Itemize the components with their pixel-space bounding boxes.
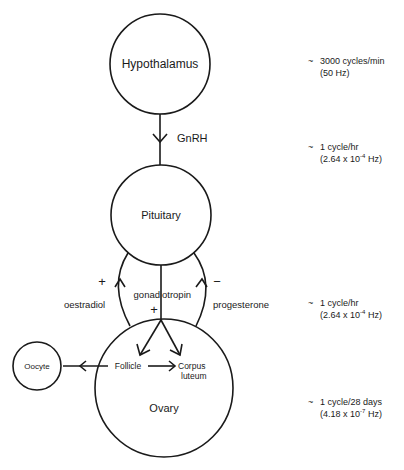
approx-sign: ~	[308, 297, 320, 309]
corpus-luteum-label-line1: Corpus	[178, 361, 205, 371]
approx-sign: ~	[308, 141, 320, 153]
frequency-hypothalamus: ~3000 cycles/min (50 Hz)	[308, 55, 385, 79]
frequency-cycles: 1 cycle/hr	[320, 298, 359, 308]
progesterone-sign: −	[213, 274, 221, 289]
approx-sign: ~	[308, 55, 320, 67]
oestradiol-label: oestradiol	[64, 299, 105, 310]
oestradiol-feedback-arc	[118, 253, 130, 326]
follicle-label: Follicle	[115, 361, 142, 371]
oestradiol-arrowhead-icon	[115, 279, 125, 287]
frequency-hz: (50 Hz)	[308, 67, 385, 79]
frequency-ovary: ~1 cycle/28 days (4.18 x 10-7 Hz)	[308, 396, 382, 420]
oestradiol-sign: +	[98, 274, 106, 289]
oocyte-label: Oocyte	[24, 362, 50, 371]
frequency-gonadotropin: ~1 cycle/hr (2.64 x 10-4 Hz)	[308, 297, 382, 321]
frequency-hz-base: (2.64 x 10	[320, 154, 360, 164]
frequency-hz-base: (4.18 x 10	[320, 409, 360, 419]
gonadotropin-to-follicle-line	[140, 320, 161, 355]
gonadotropin-sign: +	[150, 302, 158, 317]
ovary-node	[95, 319, 233, 457]
frequency-cycles: 1 cycle/hr	[320, 142, 359, 152]
corpus-arrowhead-icon	[170, 344, 182, 355]
frequency-gnrh: ~1 cycle/hr (2.64 x 10-4 Hz)	[308, 141, 382, 165]
frequency-hz: (2.64 x 10-4 Hz)	[308, 153, 382, 165]
gonadotropin-label-right: otropin	[162, 289, 191, 300]
frequency-hz-unit: Hz)	[365, 409, 382, 419]
gnrh-label: GnRH	[177, 132, 208, 144]
approx-sign: ~	[308, 396, 320, 408]
frequency-hz-unit: Hz)	[365, 154, 382, 164]
frequency-cycles: 1 cycle/28 days	[320, 397, 382, 407]
pituitary-label: Pituitary	[141, 209, 181, 221]
ovary-label: Ovary	[149, 402, 179, 414]
frequency-hz: (4.18 x 10-7 Hz)	[308, 408, 382, 420]
corpus-luteum-label-line2: luteum	[181, 371, 207, 381]
hypothalamus-label: Hypothalamus	[122, 57, 199, 71]
frequency-hz: (2.64 x 10-4 Hz)	[308, 309, 382, 321]
progesterone-label: progesterone	[213, 299, 269, 310]
frequency-hz-unit: Hz)	[365, 310, 382, 320]
progesterone-feedback-arc	[194, 253, 206, 326]
frequency-hz-base: (2.64 x 10	[320, 310, 360, 320]
gonadotropin-label-left: gonad	[134, 289, 160, 300]
frequency-cycles: 3000 cycles/min	[320, 56, 385, 66]
